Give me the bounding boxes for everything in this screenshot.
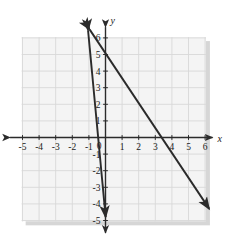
x-tick-label: 3 [153,142,158,152]
x-tick-label: -5 [19,142,27,152]
x-tick-label: 2 [136,142,141,152]
y-tick-label: -5 [93,216,101,226]
x-tick-label: 1 [120,142,125,152]
y-tick-label: 2 [96,100,101,110]
x-axis-label: x [217,133,223,144]
coordinate-plane-svg: -5-4-3-2-1123456654321-1-2-3-4-50xy [0,0,231,247]
y-tick-label: -4 [93,199,101,209]
graph-figure: -5-4-3-2-1123456654321-1-2-3-4-50xy [0,0,231,247]
y-tick-label: 4 [96,67,101,77]
x-tick-label: 5 [186,142,191,152]
y-axis-label: y [110,15,116,26]
y-tick-label: -2 [93,166,101,176]
y-tick-label: 5 [96,50,101,60]
x-tick-label: -4 [35,142,43,152]
x-tick-label: -3 [52,142,60,152]
y-tick-label: -3 [93,183,101,193]
x-tick-label: -2 [68,142,76,152]
x-tick-label: 6 [203,142,208,152]
y-tick-label: 3 [96,83,101,93]
